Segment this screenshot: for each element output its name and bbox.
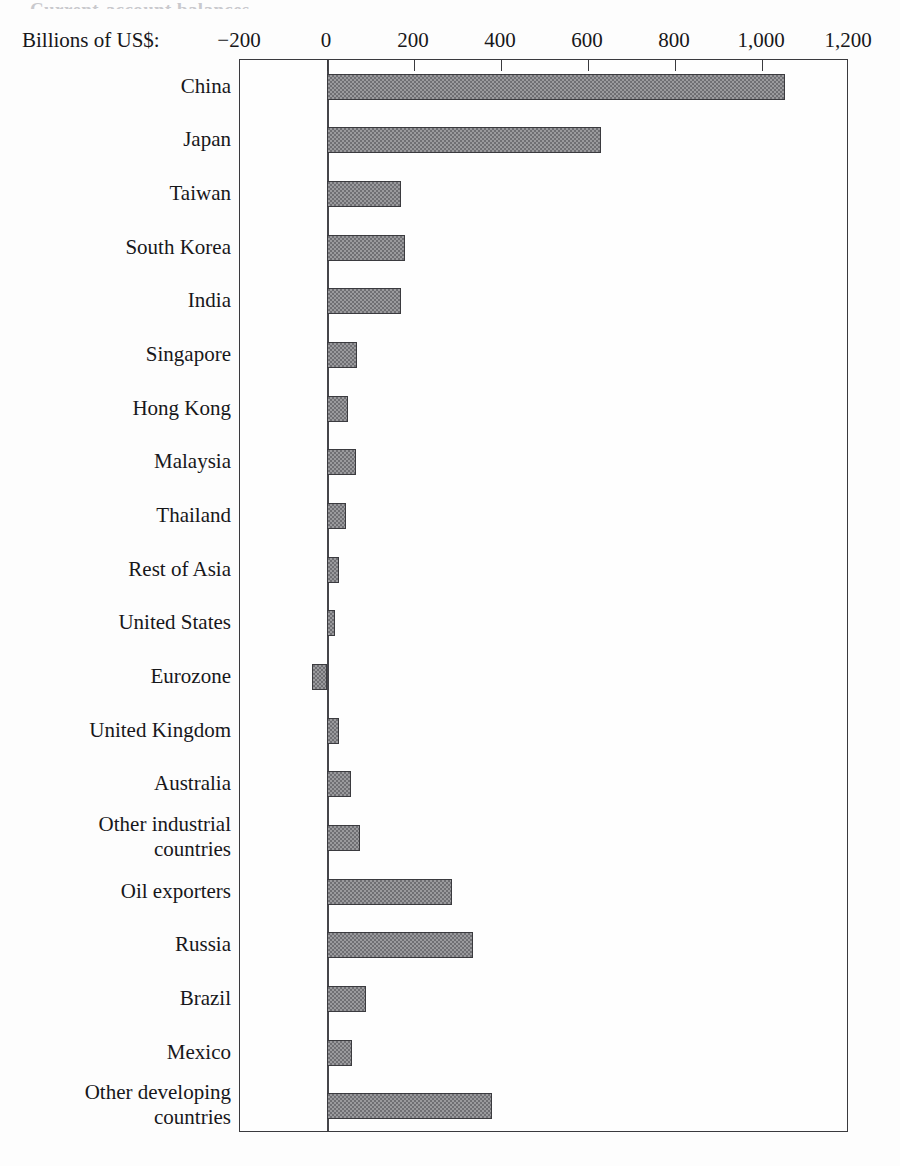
category-label: United States [118,610,231,635]
bar [327,771,351,797]
bar [312,664,327,690]
bar [327,235,405,261]
x-tick-label: 800 [658,28,690,53]
category-label: South Korea [125,234,231,259]
plot-area [239,59,848,1132]
category-label: China [181,73,231,98]
bar [327,879,452,905]
zero-baseline [327,60,329,1131]
category-label: Singapore [146,342,231,367]
category-label: Taiwan [169,181,231,206]
category-label: Australia [154,771,231,796]
category-label: Mexico [167,1039,231,1064]
chart-page: Current-account balances Billions of US$… [0,0,900,1166]
bar [327,503,346,529]
bar [327,986,366,1012]
category-label: Thailand [156,503,231,528]
x-tickmark [588,60,589,71]
category-label: Hong Kong [132,395,231,420]
category-label: Brazil [180,985,231,1010]
bar [327,288,401,314]
category-label: Rest of Asia [128,556,231,581]
bar [327,74,785,100]
x-tick-label: 600 [571,28,603,53]
category-label: Oil exporters [121,878,231,903]
category-label: Other industrial countries [99,812,231,862]
x-tickmark [762,60,763,71]
category-label: India [188,288,231,313]
bar [327,825,360,851]
category-label: Other developing countries [85,1080,231,1130]
bar [327,932,473,958]
x-tickmark [501,60,502,71]
bar [327,610,335,636]
x-tick-label: 1,000 [737,28,784,53]
axis-units-label: Billions of US$: [22,28,160,53]
bar [327,1093,492,1119]
x-tick-label: 0 [321,28,332,53]
bar [327,396,348,422]
bar [327,718,339,744]
category-label: United Kingdom [89,717,231,742]
x-tick-label: 1,200 [824,28,871,53]
x-tickmark [327,60,328,71]
category-label: Eurozone [151,663,231,688]
x-tickmark [414,60,415,71]
x-tick-label: 400 [484,28,516,53]
x-tick-label: −200 [217,28,260,53]
category-label: Russia [175,932,231,957]
bar [327,342,357,368]
bar [327,449,356,475]
cut-off-title: Current-account balances [30,0,330,9]
bar [327,181,401,207]
bar [327,1040,352,1066]
x-tick-label: 200 [397,28,429,53]
bar [327,557,339,583]
category-label: Malaysia [154,449,231,474]
x-tickmark [675,60,676,71]
category-label: Japan [183,127,231,152]
bar [327,127,601,153]
